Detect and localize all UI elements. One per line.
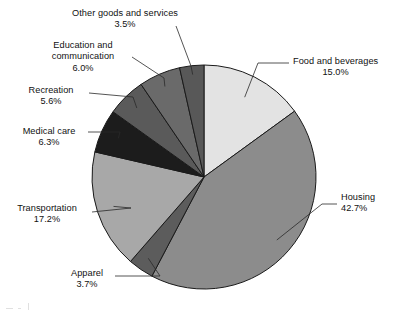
pie-slice-group: [92, 65, 316, 289]
scan-artifact: [6, 302, 42, 311]
slice-label-food-and-beverages: Food and beverages 15.0%: [293, 56, 378, 79]
slice-label-medical-care: Medical care 6.3%: [13, 126, 85, 149]
slice-label-recreation: Recreation 5.6%: [17, 85, 85, 108]
slice-label-name: Housing: [341, 192, 375, 203]
slice-label-percent: 6.3%: [13, 137, 85, 148]
slice-label-percent: 6.0%: [34, 63, 132, 74]
slice-label-apparel: Apparel 3.7%: [57, 268, 117, 291]
slice-label-name: Recreation: [17, 85, 85, 96]
slice-label-name: Transportation: [8, 203, 86, 214]
slice-label-percent: 17.2%: [8, 214, 86, 225]
slice-label-other-goods-and-services: Other goods and services 3.5%: [55, 8, 195, 31]
pie-chart-figure: Food and beverages 15.0% Housing 42.7% A…: [0, 0, 411, 314]
slice-label-percent: 3.5%: [55, 19, 195, 30]
slice-label-transportation: Transportation 17.2%: [8, 203, 86, 226]
slice-label-name: Food and beverages: [293, 56, 378, 67]
slice-label-percent: 3.7%: [57, 279, 117, 290]
slice-label-housing: Housing 42.7%: [341, 192, 375, 215]
slice-label-name: Apparel: [57, 268, 117, 279]
slice-label-name: Other goods and services: [55, 8, 195, 19]
slice-label-percent: 5.6%: [17, 96, 85, 107]
slice-label-percent: 15.0%: [293, 67, 378, 78]
slice-label-name: Medical care: [13, 126, 85, 137]
slice-label-name: Education and communication: [34, 40, 132, 63]
slice-label-percent: 42.7%: [341, 203, 375, 214]
slice-label-education-and-communication: Education and communication 6.0%: [34, 40, 132, 74]
